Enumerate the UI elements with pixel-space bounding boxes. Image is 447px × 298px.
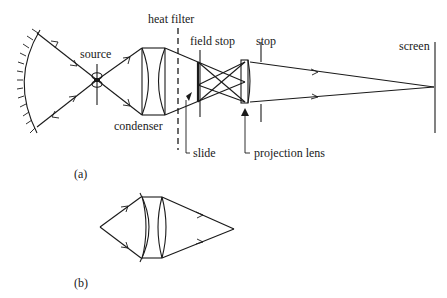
part-b: (b) [74, 193, 234, 290]
caption-b: (b) [74, 276, 88, 290]
source-lamp [92, 64, 102, 105]
meniscus-lens [140, 193, 149, 262]
caption-a: (a) [74, 167, 87, 181]
screen-label: screen [399, 39, 430, 53]
slide-pointer [186, 92, 192, 153]
heat-filter-label: heat filter [148, 12, 194, 26]
stop-label: stop [256, 34, 276, 48]
slide-label: slide [193, 146, 216, 160]
projector-optics-diagram: source condenser heat filter [0, 0, 447, 298]
condenser-lens [142, 48, 165, 115]
projection-lens [241, 60, 250, 103]
projection-lens-label: projection lens [254, 146, 325, 160]
screen-rays [250, 62, 434, 102]
concave-mirror [17, 29, 40, 133]
slide-rays [165, 48, 245, 115]
condenser-label: condenser [114, 119, 163, 133]
source-label: source [80, 47, 111, 61]
part-a: source condenser heat filter [17, 12, 435, 181]
field-stop-label: field stop [190, 34, 235, 48]
projection-lens-pointer [241, 108, 250, 153]
